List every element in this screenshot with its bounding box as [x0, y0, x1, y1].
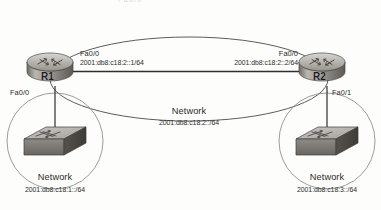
r1-wan-address-label: 2001:db8:c18:2::1/64 — [80, 59, 144, 66]
r2-lan-interface-label: Fa0/1 — [332, 89, 351, 97]
router-r2-label: R2 — [313, 72, 326, 83]
network-left-label: Network — [5, 173, 105, 183]
network-left-address: 2001:db8:c18:1::/64 — [5, 186, 105, 193]
r1-wan-interface-label: Fa0/0 — [80, 50, 99, 58]
switch-left-icon — [24, 127, 86, 155]
r2-wan-address-label: 2001:db8:c18:2::2/64 — [200, 59, 298, 66]
r2-wan-interface-label: Fa0/0 — [200, 50, 298, 58]
network-center-label: Network — [139, 107, 239, 117]
r1-lan-interface-label: Fa0/0 — [10, 89, 29, 97]
switch-right-icon — [296, 127, 358, 155]
router-r1-label: R1 — [41, 72, 54, 83]
network-right-address: 2001:db8:c18:3::/64 — [277, 186, 377, 193]
network-topology-diagram: Fa0/0 — [0, 0, 381, 210]
network-center-address: 2001:db8:c18:2::/64 — [139, 119, 239, 126]
network-right-label: Network — [277, 173, 377, 183]
